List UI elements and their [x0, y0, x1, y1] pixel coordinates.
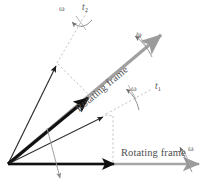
- t2-label: t2: [82, 3, 88, 13]
- omega-label-bottom-right: ω: [188, 144, 194, 153]
- magnetization-vectors: [8, 66, 114, 164]
- t2-projection-dashed: [58, 64, 90, 96]
- t2-label-subscript: 2: [85, 6, 88, 13]
- t1-label: t1: [155, 82, 161, 92]
- rotating-frame-axes: [8, 35, 199, 164]
- omega-label-upper-right: ω: [136, 30, 142, 39]
- t1-connector-dashed: [105, 115, 113, 116]
- rotating-frame-vector-diagram: ω t2 ω ω t1 ω Rotating frame Rotating fr…: [0, 0, 207, 185]
- thin-steep-vector: [8, 66, 56, 164]
- t1-label-subscript: 1: [158, 85, 161, 92]
- t2-dashed-line: [57, 10, 88, 63]
- precession-indicator-line: [47, 128, 60, 178]
- downward-precession-arrow: [47, 128, 60, 178]
- omega-label-middle: ω: [131, 84, 137, 93]
- rotating-frame-horizontal-label: Rotating frame: [121, 148, 186, 159]
- omega-label-top: ω: [59, 4, 65, 13]
- t1-dashed-line: [106, 89, 152, 114]
